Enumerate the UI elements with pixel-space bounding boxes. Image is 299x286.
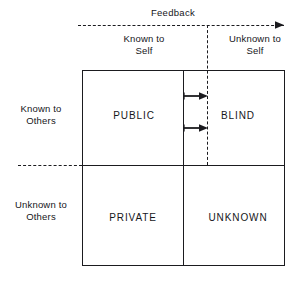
feedback-boundary-dashed-line — [207, 25, 208, 165]
feedback-label: Feedback — [138, 7, 208, 19]
column-header-unknown-to-self: Unknown to Self — [212, 33, 298, 57]
feedback-arrow-line — [78, 25, 284, 26]
johari-window-diagram: Feedback Known to Self Unknown to Self K… — [0, 0, 299, 286]
quadrant-label-unknown: UNKNOWN — [200, 212, 276, 225]
matrix-horizontal-divider — [82, 165, 285, 166]
disclosure-axis-dashed-line — [18, 165, 82, 166]
quadrant-label-private: PRIVATE — [97, 212, 169, 225]
row-header-unknown-to-others: Unknown to Others — [2, 199, 80, 223]
quadrant-label-blind: BLIND — [206, 110, 270, 123]
row-header-known-to-others: Known to Others — [2, 103, 80, 127]
matrix-vertical-divider — [183, 70, 184, 266]
column-header-known-to-self: Known to Self — [96, 33, 192, 57]
quadrant-label-public: PUBLIC — [98, 110, 170, 123]
